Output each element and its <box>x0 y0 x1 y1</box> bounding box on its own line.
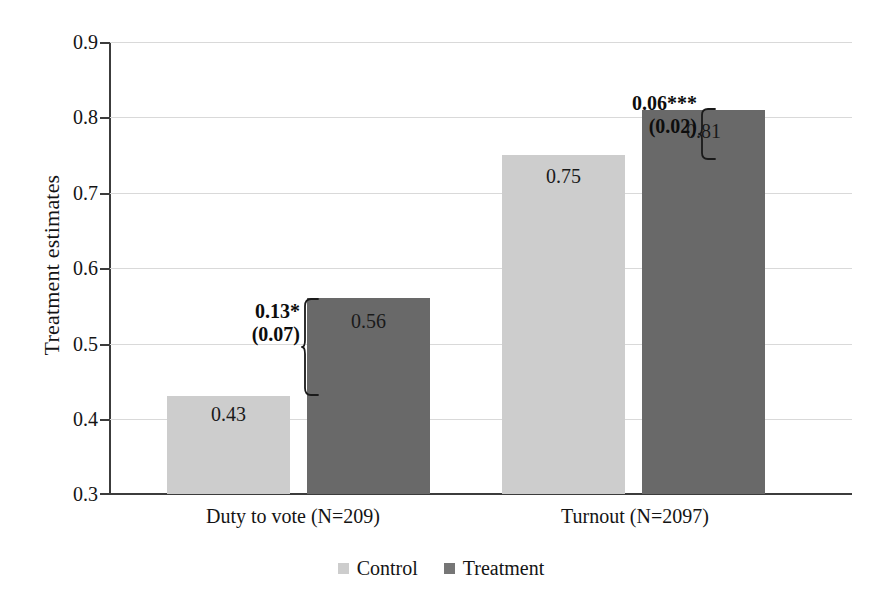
annotation-stderr-duty-to-vote: (0.07) <box>190 323 300 346</box>
legend-swatch-control-icon <box>338 563 349 574</box>
gridline-0_9 <box>110 42 852 43</box>
y-axis-tick-0_4 <box>100 419 110 421</box>
annotation-turnout: 0.06*** (0.02) <box>575 92 697 138</box>
annotation-duty-to-vote: 0.13* (0.07) <box>190 300 300 346</box>
y-tick-label-0_3: 0.3 <box>46 484 98 504</box>
category-label-turnout: Turnout (N=2097) <box>470 505 800 528</box>
y-tick-label-0_6: 0.6 <box>46 258 98 278</box>
annotation-estimate-duty-to-vote: 0.13* <box>190 300 300 323</box>
y-axis-tick-0_9 <box>100 42 110 44</box>
y-tick-label-0_8: 0.8 <box>46 107 98 127</box>
y-axis-tick-0_6 <box>100 268 110 270</box>
y-tick-label-0_4: 0.4 <box>46 409 98 429</box>
y-tick-label-0_5: 0.5 <box>46 334 98 354</box>
y-axis-tick-0_5 <box>100 344 110 346</box>
legend-label-control: Control <box>357 558 418 578</box>
y-tick-label-0_9: 0.9 <box>46 32 98 52</box>
bar-treatment-turnout[interactable] <box>642 110 765 494</box>
legend-item-control[interactable]: Control <box>338 558 418 578</box>
bracket-duty-to-vote <box>302 298 322 396</box>
bar-control-turnout[interactable] <box>502 155 625 494</box>
bar-value-treatment-duty-to-vote: 0.56 <box>307 311 430 331</box>
legend-swatch-treatment-icon <box>444 563 455 574</box>
category-label-duty-to-vote: Duty to vote (N=209) <box>128 505 458 528</box>
annotation-estimate-turnout: 0.06*** <box>575 92 697 115</box>
bar-chart-figure: Treatment estimates 0.9 0.8 0.7 0.6 0.5 … <box>0 0 882 605</box>
legend-label-treatment: Treatment <box>463 558 544 578</box>
annotation-stderr-turnout: (0.02) <box>575 115 697 138</box>
bracket-turnout <box>699 108 719 160</box>
y-axis-tick-labels: 0.9 0.8 0.7 0.6 0.5 0.4 0.3 <box>38 0 98 605</box>
bar-value-control-turnout: 0.75 <box>502 166 625 186</box>
plot-area <box>110 42 852 494</box>
legend-item-treatment[interactable]: Treatment <box>444 558 544 578</box>
y-tick-label-0_7: 0.7 <box>46 183 98 203</box>
bar-value-control-duty-to-vote: 0.43 <box>167 404 290 424</box>
y-axis-tick-0_8 <box>100 117 110 119</box>
y-axis-tick-0_7 <box>100 193 110 195</box>
chart-legend: Control Treatment <box>0 558 882 578</box>
